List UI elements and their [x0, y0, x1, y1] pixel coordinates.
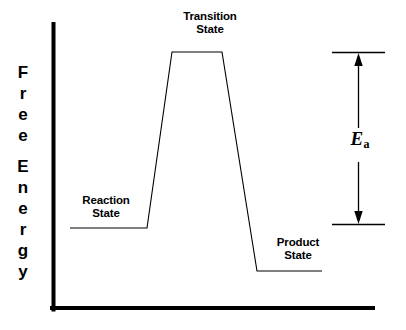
activation-energy-label: Ea — [338, 128, 382, 151]
reaction-state-label-line2: State — [64, 207, 148, 220]
y-axis-title-char: r — [8, 83, 38, 104]
reaction-state-label-line1: Reaction — [82, 194, 129, 206]
y-axis-title-char: r — [8, 219, 38, 240]
product-state-label-line1: Product — [277, 236, 319, 248]
product-state-label: Product State — [256, 236, 340, 262]
transition-state-label-line2: State — [168, 23, 252, 36]
y-axis-title-char: g — [8, 240, 38, 261]
activation-energy-symbol: E — [350, 128, 363, 149]
y-axis-title-char: E — [8, 156, 38, 177]
diagram-canvas — [0, 0, 406, 330]
y-axis-title-char: e — [8, 125, 38, 146]
transition-state-label: Transition State — [168, 10, 252, 36]
activation-energy-arrowhead-up — [354, 53, 362, 66]
y-axis-title-char: F — [8, 62, 38, 83]
y-axis-title-char: e — [8, 198, 38, 219]
reaction-state-label: Reaction State — [64, 194, 148, 220]
y-axis-title-char: n — [8, 177, 38, 198]
y-axis-title-char: e — [8, 104, 38, 125]
y-axis-title-spacer — [8, 146, 38, 156]
activation-energy-subscript: a — [363, 137, 370, 151]
reaction-coordinate-diagram: F r e e E n e r g y Transition State Rea… — [0, 0, 406, 330]
y-axis-title-char: y — [8, 261, 38, 282]
activation-energy-arrowhead-down — [354, 211, 362, 224]
transition-state-label-line1: Transition — [183, 10, 236, 22]
y-axis-title: F r e e E n e r g y — [8, 62, 38, 282]
product-state-label-line2: State — [256, 249, 340, 262]
